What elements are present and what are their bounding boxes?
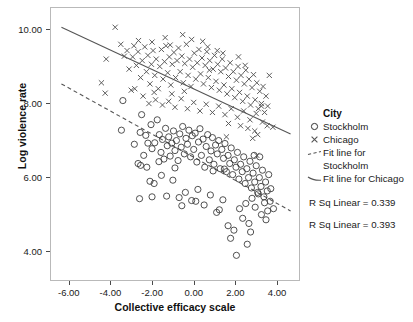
data-point <box>257 89 262 94</box>
data-point <box>245 126 250 131</box>
data-point <box>158 149 164 155</box>
rsq-annotations: R Sq Linear = 0.339 R Sq Linear = 0.393 <box>306 197 413 230</box>
data-point <box>248 102 253 107</box>
data-point <box>182 189 188 195</box>
data-point <box>253 163 259 169</box>
rsq-chicago: R Sq Linear = 0.393 <box>309 219 413 230</box>
rsq-stockholm: R Sq Linear = 0.339 <box>309 197 413 208</box>
data-point <box>219 146 225 152</box>
data-point <box>137 129 143 135</box>
legend-label-fit-stockholm-cont: Stockholm <box>323 159 413 172</box>
data-point <box>179 54 184 59</box>
data-point <box>160 76 165 81</box>
data-point <box>265 208 271 214</box>
x-tick-label: -6.00 <box>58 287 80 298</box>
data-point <box>233 252 239 258</box>
data-point <box>252 128 257 133</box>
legend-label-fit-stockholm: Fit line for <box>323 146 366 159</box>
data-point <box>198 152 204 158</box>
data-point <box>157 64 162 69</box>
data-point <box>249 85 254 90</box>
data-point <box>264 188 270 194</box>
data-point <box>148 122 154 128</box>
data-point <box>182 89 187 94</box>
data-point <box>246 220 252 226</box>
data-point <box>226 121 231 126</box>
data-point <box>170 128 176 134</box>
data-point <box>195 139 201 145</box>
data-point <box>268 186 274 192</box>
data-point <box>171 50 176 55</box>
data-point <box>265 123 270 128</box>
data-point <box>149 39 154 44</box>
y-tick-label: 4.00 <box>0 246 42 257</box>
data-point <box>169 91 174 96</box>
data-point <box>253 97 258 102</box>
data-point <box>259 101 264 106</box>
plot-area <box>50 7 300 281</box>
data-point <box>170 62 175 67</box>
data-point <box>243 200 249 206</box>
x-tick-label: 4.00 <box>268 287 287 298</box>
data-point <box>130 54 135 59</box>
data-point <box>147 81 152 86</box>
data-point <box>197 108 202 113</box>
data-point <box>235 115 240 120</box>
data-point <box>99 80 104 85</box>
data-point <box>118 127 124 133</box>
data-point <box>113 25 118 30</box>
data-point <box>172 147 178 153</box>
data-point <box>232 95 237 100</box>
data-point <box>172 165 178 171</box>
data-point <box>139 112 145 118</box>
data-point <box>231 157 237 163</box>
data-point <box>166 99 171 104</box>
data-point <box>246 76 251 81</box>
data-point <box>226 74 231 79</box>
data-point <box>138 75 143 80</box>
data-point <box>160 102 165 107</box>
data-point <box>120 97 126 103</box>
data-point <box>205 44 210 49</box>
circle-open-icon <box>306 120 323 133</box>
data-point <box>250 136 255 141</box>
legend: City Stockholm Chicago Fi <box>306 108 413 230</box>
series-chicago <box>99 25 276 158</box>
data-point <box>254 80 259 85</box>
data-point <box>175 157 181 163</box>
legend-item-chicago: Chicago <box>306 133 413 146</box>
data-point <box>140 94 145 99</box>
data-point <box>184 141 190 147</box>
data-point <box>180 123 186 129</box>
data-point <box>227 235 233 241</box>
data-point <box>127 66 132 71</box>
data-point <box>247 229 253 235</box>
data-point <box>149 146 155 152</box>
data-point <box>136 196 142 202</box>
x-marker-icon <box>306 133 323 146</box>
data-point <box>224 91 229 96</box>
data-point <box>258 212 264 218</box>
data-point <box>231 227 237 233</box>
data-point <box>194 159 200 165</box>
fit-line-chicago <box>61 27 290 134</box>
y-tick-mark <box>46 29 50 30</box>
data-point <box>259 167 265 173</box>
data-point <box>149 194 155 200</box>
data-point <box>200 39 205 44</box>
data-point <box>104 57 109 62</box>
data-point <box>166 134 172 140</box>
data-point <box>230 172 236 178</box>
data-point <box>202 164 208 170</box>
data-point <box>183 135 189 141</box>
data-point <box>176 45 181 50</box>
data-point <box>265 104 270 109</box>
data-point <box>156 159 162 165</box>
data-point <box>185 106 190 111</box>
data-point <box>240 215 246 221</box>
dashed-line-icon <box>306 146 323 159</box>
data-point <box>256 174 262 180</box>
data-point <box>261 200 267 206</box>
data-point <box>179 203 185 209</box>
data-point <box>241 154 247 160</box>
